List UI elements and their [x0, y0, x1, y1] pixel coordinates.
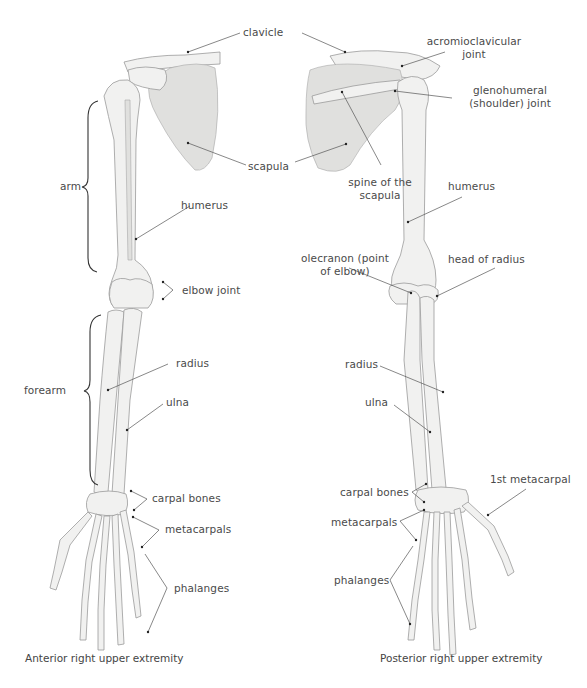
label-head-of-radius: head of radius — [448, 253, 525, 266]
posterior-arm-illustration — [306, 51, 514, 655]
label-phalanges-posterior: phalanges — [334, 574, 389, 587]
caption-anterior: Anterior right upper extremity — [25, 652, 183, 664]
label-acromioclavicular-line1: acromioclavicular — [414, 35, 534, 48]
label-clavicle: clavicle — [243, 26, 283, 39]
label-metacarpals-posterior: metacarpals — [331, 516, 397, 529]
anatomy-figure: clavicle scapula arm humerus elbow joint… — [0, 0, 587, 688]
label-spine-of-scapula: spine of the scapula — [330, 176, 430, 202]
label-carpal-bones-posterior: carpal bones — [340, 486, 409, 499]
label-first-metacarpal: 1st metacarpal — [490, 473, 571, 486]
label-spine-line2: scapula — [330, 189, 430, 202]
caption-posterior: Posterior right upper extremity — [380, 652, 542, 664]
anterior-arm-illustration — [50, 52, 220, 650]
label-radius-posterior: radius — [345, 358, 378, 371]
label-glenohumeral-joint: glenohumeral (shoulder) joint — [450, 84, 570, 110]
label-phalanges-anterior: phalanges — [174, 582, 229, 595]
label-acromioclavicular-joint: acromioclavicular joint — [414, 35, 534, 61]
label-metacarpals-anterior: metacarpals — [165, 523, 231, 536]
label-olecranon-line1: olecranon (point — [290, 252, 400, 265]
label-ulna-posterior: ulna — [365, 396, 388, 409]
label-humerus-posterior: humerus — [448, 180, 495, 193]
label-arm: arm — [60, 180, 81, 193]
label-forearm: forearm — [24, 384, 66, 397]
label-scapula-anterior: scapula — [248, 160, 289, 173]
label-olecranon-line2: of elbow) — [290, 265, 400, 278]
label-carpal-bones-anterior: carpal bones — [152, 492, 221, 505]
label-glenohumeral-line2: (shoulder) joint — [450, 97, 570, 110]
label-elbow-joint: elbow joint — [182, 284, 241, 297]
label-ulna-anterior: ulna — [166, 396, 189, 409]
label-radius-anterior: radius — [176, 357, 209, 370]
label-spine-line1: spine of the — [330, 176, 430, 189]
label-glenohumeral-line1: glenohumeral — [450, 84, 570, 97]
label-olecranon: olecranon (point of elbow) — [290, 252, 400, 278]
label-acromioclavicular-line2: joint — [414, 48, 534, 61]
label-humerus-anterior: humerus — [181, 199, 228, 212]
